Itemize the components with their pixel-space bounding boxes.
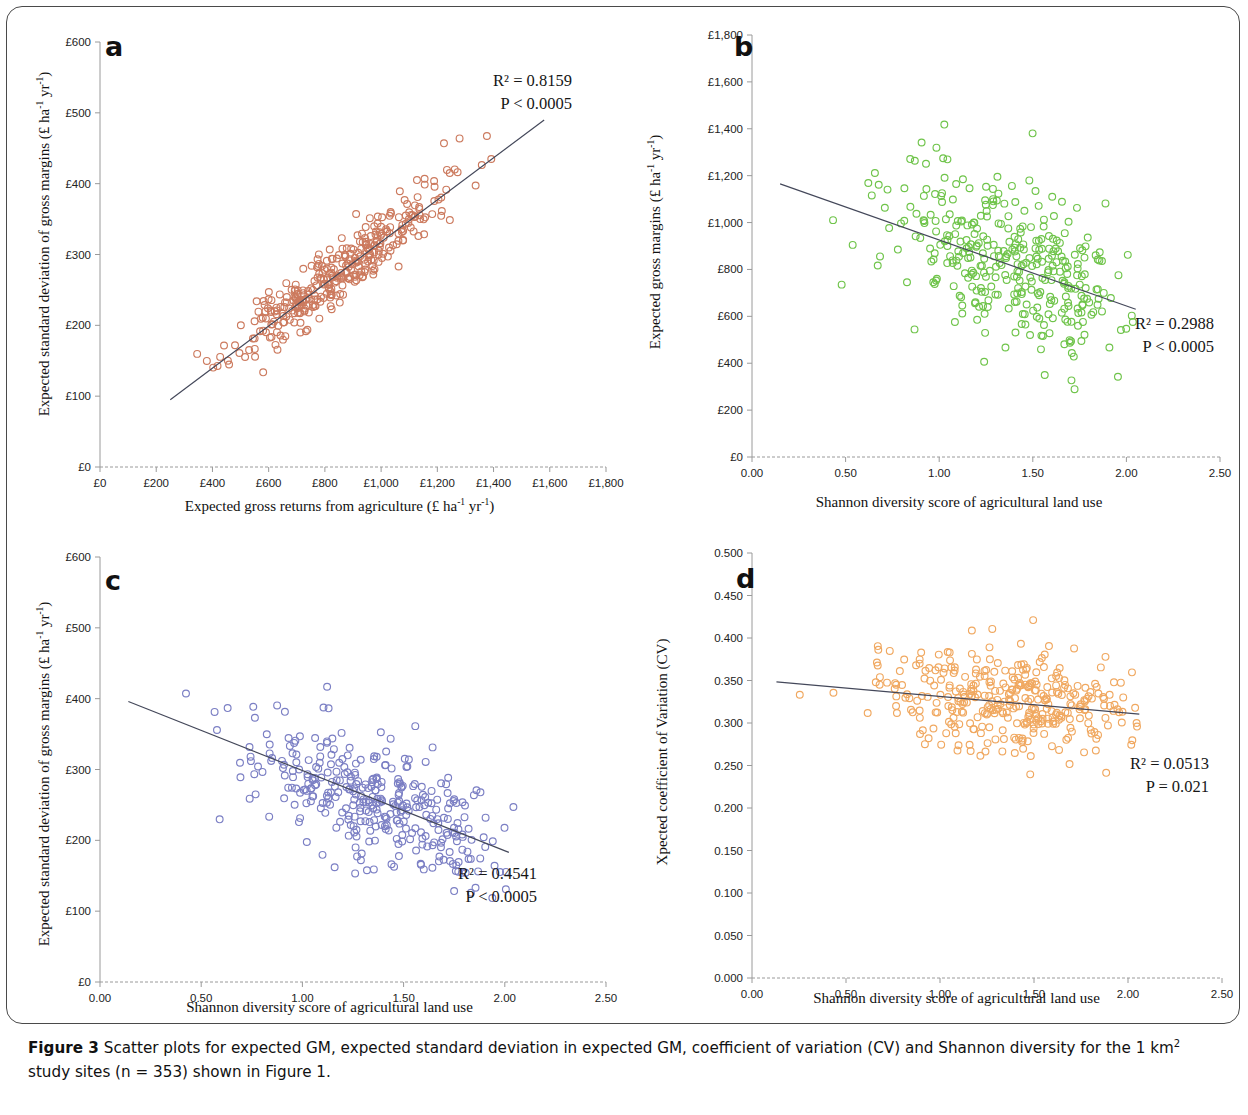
y-tick-label: £1,000: [708, 217, 743, 229]
panel-d-letter: d: [736, 563, 755, 594]
x-tick-label: £0: [94, 477, 107, 489]
panel-b: b Expected gross margins (£ ha-1 yr-1) S…: [624, 7, 1241, 527]
y-tick-label: £400: [717, 357, 743, 369]
x-tick-label: £1,400: [476, 477, 511, 489]
y-tick-label: £0: [78, 461, 91, 473]
panel-a-pvalue: P < 0.0005: [382, 92, 572, 115]
y-tick-label: £800: [717, 263, 743, 275]
scatter-points: [194, 133, 495, 376]
y-tick-label: £300: [65, 764, 91, 776]
x-tick-label: £1,200: [420, 477, 455, 489]
panel-a-x-axis-title: Expected gross returns from agriculture …: [67, 497, 612, 515]
panel-b-pvalue: P < 0.0005: [1024, 335, 1214, 358]
y-tick-label: £500: [65, 107, 91, 119]
panel-d-x-axis-title: Shannon diversity score of agricultural …: [684, 990, 1229, 1007]
panel-c-y-axis-title: Expected standard deviation of gross mar…: [35, 559, 53, 989]
x-tick-label: £800: [312, 477, 338, 489]
panel-b-x-axis-title: Shannon diversity score of agricultural …: [694, 494, 1224, 511]
y-tick-label: 0.400: [714, 632, 743, 644]
panel-c-r2: R² = 0.4541: [347, 862, 537, 885]
panel-a-letter: a: [105, 31, 123, 62]
x-tick-label: 0.00: [741, 467, 763, 479]
y-tick-label: £400: [65, 693, 91, 705]
y-tick-label: £200: [65, 319, 91, 331]
caption-figure-number: Figure 3: [28, 1039, 99, 1057]
figure-frame: a Expected standard deviation of gross m…: [6, 6, 1240, 1024]
panel-a-y-axis-text: Expected standard deviation of gross mar…: [36, 109, 52, 417]
y-tick-label: 0.150: [714, 845, 743, 857]
x-tick-label: 2.00: [1115, 467, 1137, 479]
panel-d: d Xpected coefficient of Variation (CV) …: [624, 527, 1241, 1025]
y-tick-label: £1,600: [708, 76, 743, 88]
y-tick-label: £500: [65, 622, 91, 634]
y-tick-label: £1,400: [708, 123, 743, 135]
panel-b-y-axis-title: Expected gross margins (£ ha-1 yr-1): [646, 77, 664, 407]
y-tick-label: £400: [65, 178, 91, 190]
panel-b-y-axis-text: Expected gross margins (£ ha: [647, 172, 663, 349]
panel-c-pvalue: P < 0.0005: [347, 885, 537, 908]
x-tick-label: 2.50: [1209, 467, 1231, 479]
panel-b-letter: b: [734, 31, 753, 62]
x-tick-label: £1,600: [532, 477, 567, 489]
x-tick-label: 0.50: [834, 467, 856, 479]
y-tick-label: £0: [78, 976, 91, 988]
y-tick-label: 0.100: [714, 887, 743, 899]
y-tick-label: 0.000: [714, 972, 743, 984]
caption-text-2: study sites (n = 353) shown in Figure 1.: [28, 1063, 331, 1081]
panel-b-r2: R² = 0.2988: [1024, 312, 1214, 335]
x-tick-label: 1.50: [1022, 467, 1044, 479]
y-tick-label: 0.500: [714, 547, 743, 559]
panel-b-stats: R² = 0.2988 P < 0.0005: [1024, 312, 1214, 359]
y-tick-label: 0.300: [714, 717, 743, 729]
y-tick-label: £100: [65, 390, 91, 402]
caption-text-1: Scatter plots for expected GM, expected …: [99, 1039, 1174, 1057]
panel-a-x-axis-text: Expected gross returns from agriculture …: [185, 498, 457, 514]
y-tick-label: 0.250: [714, 760, 743, 772]
panel-a-r2: R² = 0.8159: [382, 69, 572, 92]
panel-c-x-axis-title: Shannon diversity score of agricultural …: [57, 999, 602, 1016]
panel-d-y-axis-title: Xpected coefficient of Variation (CV): [654, 587, 671, 917]
panel-c-letter: c: [105, 565, 121, 596]
y-tick-label: £100: [65, 905, 91, 917]
y-tick-label: £600: [65, 551, 91, 563]
panel-c-plot: £0£100£200£300£400£500£6000.000.501.001.…: [7, 527, 624, 1025]
panel-a: a Expected standard deviation of gross m…: [7, 7, 624, 527]
y-tick-label: 0.350: [714, 675, 743, 687]
y-tick-label: 0.200: [714, 802, 743, 814]
x-tick-label: £1,000: [364, 477, 399, 489]
y-tick-label: £200: [717, 404, 743, 416]
panel-d-pvalue: P = 0.021: [1024, 775, 1209, 798]
y-tick-label: £200: [65, 834, 91, 846]
y-tick-label: £0: [730, 451, 743, 463]
x-tick-label: £1,800: [588, 477, 623, 489]
y-tick-label: £600: [65, 36, 91, 48]
caption-superscript: 2: [1174, 1038, 1180, 1049]
panel-a-stats: R² = 0.8159 P < 0.0005: [382, 69, 572, 116]
y-tick-label: £1,200: [708, 170, 743, 182]
y-tick-label: 0.050: [714, 930, 743, 942]
panel-c-y-axis-text: Expected standard deviation of gross mar…: [36, 639, 52, 947]
panel-d-stats: R² = 0.0513 P = 0.021: [1024, 752, 1209, 799]
x-tick-label: £400: [200, 477, 226, 489]
y-tick-label: £600: [717, 310, 743, 322]
trend-line: [170, 120, 544, 400]
panel-c: c Expected standard deviation of gross m…: [7, 527, 624, 1025]
panel-c-stats: R² = 0.4541 P < 0.0005: [347, 862, 537, 909]
y-tick-label: £300: [65, 249, 91, 261]
panel-a-y-axis-title: Expected standard deviation of gross mar…: [35, 29, 53, 459]
x-tick-label: £600: [256, 477, 282, 489]
figure-caption: Figure 3 Scatter plots for expected GM, …: [28, 1036, 1218, 1084]
panel-d-r2: R² = 0.0513: [1024, 752, 1209, 775]
panel-b-plot: £0£200£400£600£800£1,000£1,200£1,400£1,6…: [624, 7, 1241, 527]
x-tick-label: 1.00: [928, 467, 950, 479]
x-tick-label: £200: [143, 477, 169, 489]
